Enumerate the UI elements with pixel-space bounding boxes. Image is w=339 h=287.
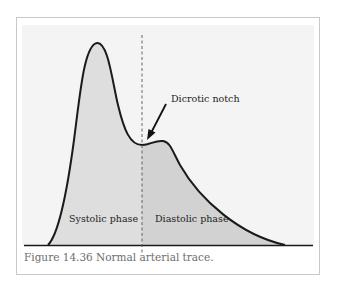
dicrotic-notch-label: Dicrotic notch	[171, 93, 240, 104]
diastolic-phase-label: Diastolic phase	[155, 213, 229, 224]
systolic-phase-label: Systolic phase	[69, 213, 138, 224]
arterial-trace-diagram: Dicrotic notch Systolic phase Diastolic …	[0, 0, 339, 287]
figure-caption: Figure 14.36 Normal arterial trace.	[24, 251, 314, 263]
